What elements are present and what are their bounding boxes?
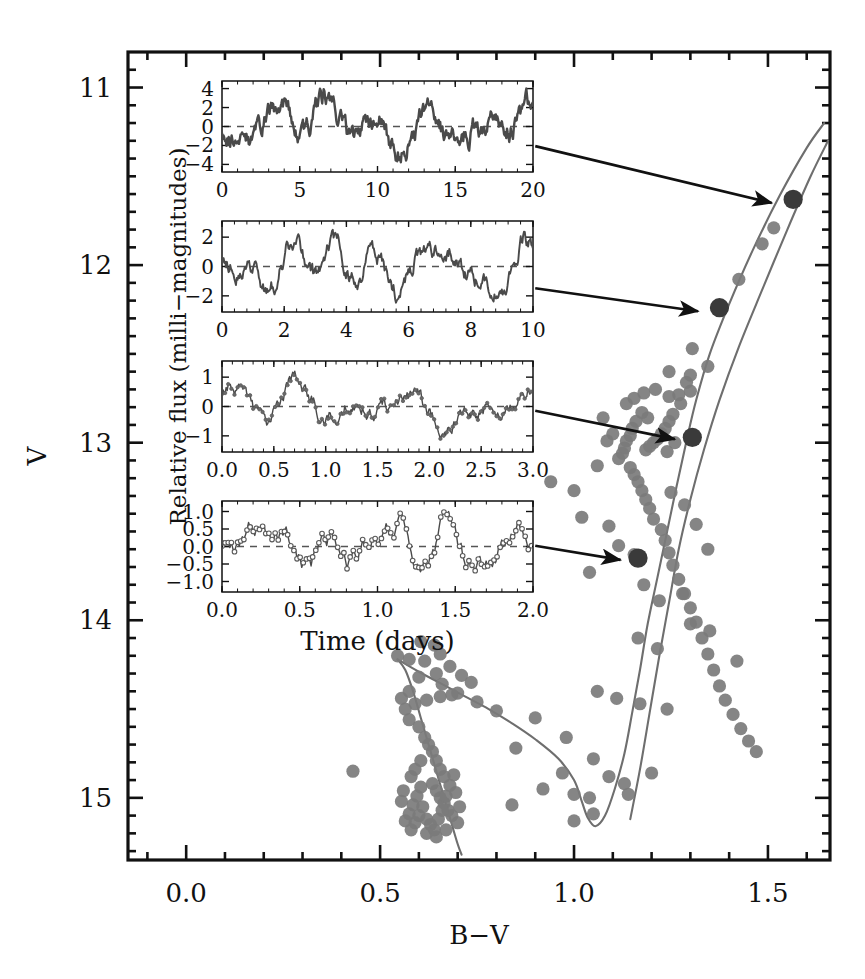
data-point [637,386,650,399]
light-curve-panel-1-y-tick-label: 4 [201,77,214,101]
data-point [430,667,443,680]
data-point [659,534,672,547]
data-point [612,452,625,465]
light-curve-panel-3-x-tick-label: 1.5 [362,458,394,482]
data-point [465,676,478,689]
x-tick-label: 0.5 [359,878,400,908]
data-point [583,566,596,579]
light-curve-panel-4-x-tick-label: 0.5 [284,598,316,622]
data-point [509,742,522,755]
data-point [664,486,677,499]
light-curve-panel-4-x-tick-label: 2.0 [517,598,549,622]
light-curve-panel-1-x-tick-label: 10 [365,178,390,202]
figure-canvas: 0.00.51.01.5B−V1112131415V05101520−4−202… [0,0,865,979]
data-point [439,823,452,836]
data-point [649,383,662,396]
highlighted-data-point [628,549,647,568]
data-point [719,694,732,707]
data-point [610,692,623,705]
data-point [443,660,456,673]
highlighted-data-point [784,190,803,209]
data-point [742,734,755,747]
light-curve-panel-2-x-tick-label: 0 [216,318,229,342]
light-curve-panel-4-x-tick-label: 1.5 [439,598,471,622]
data-point [591,459,604,472]
y-tick-label: 11 [79,73,112,103]
data-point [678,498,691,511]
data-point [767,221,780,234]
data-point [622,788,635,801]
main-plot-frame [128,52,830,860]
data-point [666,559,679,572]
data-point [470,695,483,708]
data-point [449,786,462,799]
data-point [637,578,650,591]
y-tick-label: 12 [79,250,112,280]
data-point [631,631,644,644]
data-point [672,573,685,586]
data-point [567,814,580,827]
light-curve-panel-4-x-tick-label: 0.0 [206,598,238,622]
data-point [732,273,745,286]
light-curve-panel-1-x-tick-label: 0 [216,178,229,202]
light-curve-panel-3-x-tick-label: 3.0 [517,458,549,482]
arrow-2 [535,288,698,311]
data-point [662,365,675,378]
light-curve-panel-2-x-tick-label: 6 [402,318,415,342]
data-point [633,697,646,710]
data-point [445,688,458,701]
light-curve-panel-2-x-tick-label: 2 [278,318,291,342]
data-point [490,704,503,717]
data-point [645,766,658,779]
data-point [647,512,660,525]
data-point [567,484,580,497]
data-point [436,804,449,817]
data-point [703,624,716,637]
arrow-1 [535,146,772,203]
data-point [701,543,714,556]
data-point [405,823,418,836]
highlighted-data-point [710,298,729,317]
light-curve-panel-1-x-tick-label: 5 [293,178,306,202]
x-tick-label: 0.0 [165,878,206,908]
data-point [612,539,625,552]
y-axis-label: V [22,445,52,466]
x-tick-label: 1.5 [747,878,788,908]
light-curve-panel-3-x-tick-label: 2.0 [413,458,445,482]
data-point [505,798,518,811]
light-curve-panel-1-x-tick-label: 15 [443,178,468,202]
data-point [653,594,666,607]
data-point [575,511,588,524]
light-curve-panel-3-x-tick-label: 2.5 [465,458,497,482]
highlighted-data-point [683,428,702,447]
data-point [536,782,549,795]
data-point [420,694,433,707]
data-point [676,587,689,600]
data-point [639,443,652,456]
data-point [556,766,569,779]
arrow-4 [535,546,620,560]
light-curve-panel-2-y-tick-label: 2 [201,225,214,249]
light-curve-panel-2-x-tick-label: 8 [464,318,477,342]
data-point [684,369,697,382]
data-point [408,697,421,710]
y-tick-label: 13 [79,428,112,458]
data-point [662,546,675,559]
data-point [587,752,600,765]
data-point [672,388,685,401]
data-point [686,342,699,355]
data-point [591,685,604,698]
data-point [726,708,739,721]
data-point [701,360,714,373]
data-point [756,237,769,250]
light-curve-panel-3-x-tick-label: 0.5 [258,458,290,482]
light-curve-panel-2-x-tick-label: 10 [520,318,545,342]
light-curve-panel-4-x-tick-label: 1.0 [362,598,394,622]
data-point [651,642,664,655]
light-curve-panel-3-y-tick-label: 1 [201,365,214,389]
data-point [346,765,359,778]
x-axis-label: B−V [449,920,510,950]
data-point [713,679,726,692]
data-point [750,745,763,758]
data-point [602,520,615,533]
